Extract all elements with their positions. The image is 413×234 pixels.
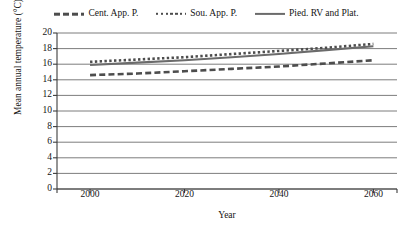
y-axis-tick-label: 8 [30,122,52,132]
x-axis-tick-label: 2040 [254,190,304,200]
y-axis-title: Mean annual temperature (°C) [13,0,23,137]
y-axis-tick-labels: 02468101214161820 [28,0,52,234]
y-axis-tick-label: 12 [30,90,52,100]
y-axis-tick-label: 0 [30,184,52,194]
temperature-trend-chart: Cent. App. P. Sou. App. P. Pied. RV and … [0,0,413,234]
y-axis-tick-label: 2 [30,168,52,178]
y-axis-tick-label: 10 [30,106,52,116]
y-axis-tick-label: 4 [30,153,52,163]
x-axis-title: Year [57,210,397,220]
y-axis-tick-label: 16 [30,59,52,69]
x-axis-tick-label: 2060 [348,190,398,200]
plot-area: 02468101214161820 2000202020402060 Mean … [0,0,413,234]
y-axis-tick-label: 18 [30,44,52,54]
series-line [90,44,373,62]
y-axis-tick-label: 14 [30,75,52,85]
x-axis-tick-label: 2000 [65,190,115,200]
y-axis-tick-label: 20 [30,28,52,38]
y-axis-tick-label: 6 [30,137,52,147]
x-axis-tick-label: 2020 [160,190,210,200]
